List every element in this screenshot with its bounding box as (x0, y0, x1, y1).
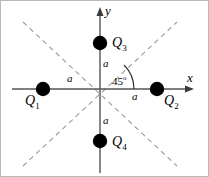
degree-symbol: o (123, 74, 127, 82)
distance-label-bottom: a (103, 115, 109, 126)
charge-label-q4: Q4 (112, 135, 127, 152)
charge-dot-q3 (93, 36, 107, 50)
charge-label-q2-index: 2 (174, 101, 179, 111)
angle-label: 45o (112, 75, 127, 87)
charge-dot-q2 (150, 82, 164, 96)
charge-diagram-figure: y x Q1 Q2 Q3 Q4 a a a a 45o (0, 0, 209, 177)
charge-label-q2-name: Q (164, 93, 174, 108)
charge-label-q3-index: 3 (122, 43, 127, 53)
distance-label-top: a (103, 58, 109, 69)
charge-dot-q4 (93, 134, 107, 148)
charge-label-q2: Q2 (164, 94, 179, 111)
charge-label-q3: Q3 (112, 36, 127, 53)
charge-label-q1-index: 1 (35, 101, 40, 111)
x-axis-label: x (187, 71, 193, 84)
charge-label-q4-name: Q (112, 134, 122, 149)
distance-label-left: a (67, 73, 73, 84)
distance-label-right: a (132, 91, 138, 102)
charge-label-q1: Q1 (25, 94, 40, 111)
diagram-canvas (1, 1, 209, 177)
x-axis-arrowhead (185, 86, 194, 93)
charge-label-q3-name: Q (112, 35, 122, 50)
angle-value: 45 (112, 75, 123, 87)
charge-label-q1-name: Q (25, 93, 35, 108)
y-axis-label: y (105, 4, 111, 17)
y-axis-arrowhead (97, 7, 104, 16)
charge-label-q4-index: 4 (122, 142, 127, 152)
